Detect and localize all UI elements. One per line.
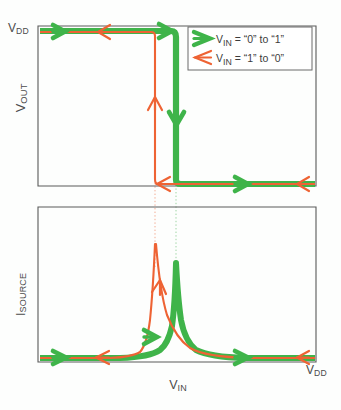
current-x-axis-right-tick-label: VDD — [306, 363, 327, 378]
inverter-hysteresis-figure — [0, 0, 341, 410]
vtc-y-axis-label: VOUT — [13, 68, 29, 128]
current-y-axis-label: ISOURCE — [14, 261, 29, 327]
current-x-axis-label: VIN — [169, 378, 187, 393]
vtc-y-axis-top-tick-label: VDD — [8, 21, 29, 36]
legend-label-rising: VIN = “0” to “1” — [216, 33, 284, 48]
legend-label-falling: VIN = “1” to “0” — [216, 52, 284, 67]
